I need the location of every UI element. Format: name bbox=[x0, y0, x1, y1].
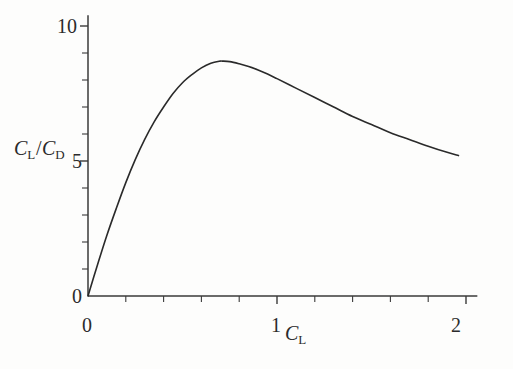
y-tick-label-5: 5 bbox=[72, 151, 82, 171]
plot-canvas bbox=[0, 0, 513, 369]
y-axis-title: CL/CD bbox=[14, 138, 65, 161]
x-tick-label-2: 2 bbox=[451, 315, 461, 335]
x-axis-title: CL bbox=[285, 323, 306, 346]
series-line bbox=[88, 61, 458, 296]
y-axis-numerator-base: C bbox=[14, 137, 27, 159]
axes bbox=[88, 15, 477, 296]
y-axis-denominator-sub: D bbox=[55, 147, 65, 162]
y-axis-denominator-base: C bbox=[42, 137, 55, 159]
data-series bbox=[88, 61, 458, 296]
x-tick-label-1: 1 bbox=[271, 315, 281, 335]
tick-marks bbox=[80, 26, 466, 304]
y-tick-label-10: 10 bbox=[57, 16, 77, 36]
chart-figure: 10 5 0 0 1 2 CL/CD CL bbox=[0, 0, 513, 369]
x-axis-sub: L bbox=[298, 332, 306, 347]
y-tick-label-0: 0 bbox=[72, 286, 82, 306]
x-tick-label-0: 0 bbox=[82, 315, 92, 335]
x-axis-base: C bbox=[285, 322, 298, 344]
